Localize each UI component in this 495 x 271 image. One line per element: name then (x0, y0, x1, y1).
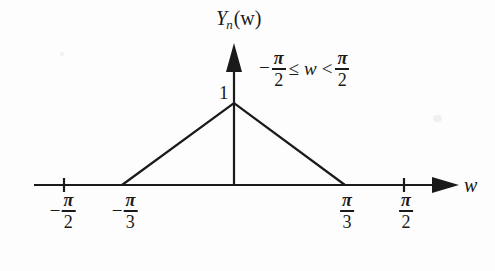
y-axis-title-argument: (w) (234, 7, 262, 29)
y-axis-arrowhead (226, 43, 242, 72)
tick-label-pi-over-2: π 2 (398, 191, 414, 231)
y-axis-title: Yn(w) (216, 8, 261, 31)
peak-value-label: 1 (219, 83, 229, 102)
tick-denominator: 2 (399, 212, 412, 231)
range-upper-numerator: π (335, 49, 349, 68)
tick-label-neg-pi-over-3: − π 3 (112, 191, 139, 231)
tick-fraction: π 3 (340, 191, 354, 231)
tick-numerator: π (340, 191, 354, 210)
tick-label-pi-over-3: π 3 (339, 191, 355, 231)
range-variable: w (304, 59, 317, 78)
tick-denominator: 3 (340, 212, 353, 231)
range-annotation: − π 2 ≤ w < π 2 (259, 49, 350, 89)
tick-fraction: π 2 (61, 191, 75, 231)
tick-minus-sign: − (50, 200, 61, 222)
tick-denominator: 3 (124, 212, 137, 231)
range-upper-fraction: π 2 (335, 49, 349, 89)
tick-label-neg-pi-over-2: − π 2 (50, 191, 77, 231)
range-lower-numerator: π (272, 49, 286, 68)
y-axis-title-subscript: n (226, 17, 233, 32)
range-lower-denominator: 2 (272, 70, 285, 89)
tick-minus-sign: − (112, 200, 123, 222)
range-lower-fraction: π 2 (272, 49, 286, 89)
tick-numerator: π (123, 191, 137, 210)
range-lower-minus-sign: − (259, 58, 270, 79)
tick-fraction: π 3 (123, 191, 137, 231)
tick-numerator: π (399, 191, 413, 210)
range-upper-denominator: 2 (336, 70, 349, 89)
spectrum-figure: Yn(w) 1 w − π 2 ≤ w < π 2 − π 2 (0, 0, 495, 271)
tick-denominator: 2 (62, 212, 75, 231)
tick-numerator: π (61, 191, 75, 210)
less-than-or-equal-symbol: ≤ (289, 59, 299, 78)
x-axis-variable-label: w (464, 175, 477, 195)
tick-fraction: π 2 (399, 191, 413, 231)
range-lower-bound: − π 2 (259, 49, 287, 89)
less-than-symbol: < (322, 59, 333, 78)
x-axis-arrowhead (432, 177, 459, 193)
